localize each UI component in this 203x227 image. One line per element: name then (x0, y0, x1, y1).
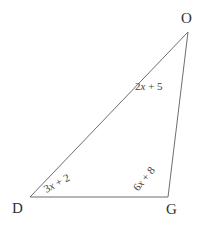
side-length-label-og: 2x + 5 (135, 81, 163, 92)
geometry-figure: O D G 2x + 5 3x + 2 6x + 8 (0, 0, 203, 227)
side-og-constant: + 5 (145, 80, 162, 92)
vertex-label-d: D (12, 201, 23, 216)
vertex-label-g: G (166, 202, 177, 217)
triangle-dog-outline (30, 32, 188, 197)
triangle-shape (0, 0, 203, 227)
vertex-label-o: O (181, 11, 192, 26)
